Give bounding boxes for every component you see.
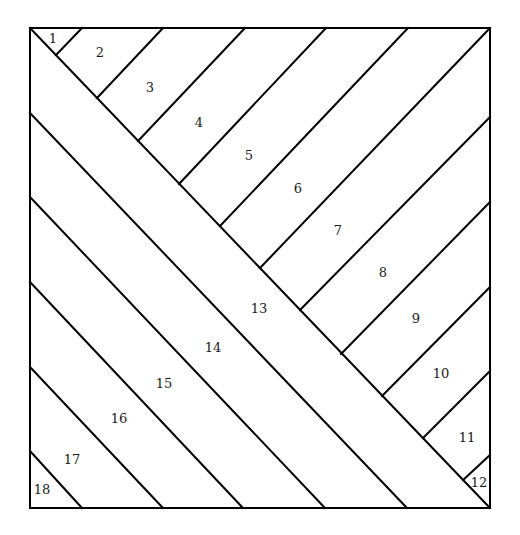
piece-label-6: 6 bbox=[294, 181, 302, 196]
piece-label-13: 13 bbox=[251, 301, 268, 316]
piece-label-16: 16 bbox=[111, 411, 128, 426]
pattern-diagram: 123456789101112131415161718 bbox=[0, 0, 520, 535]
piece-label-2: 2 bbox=[96, 45, 104, 60]
piece-label-5: 5 bbox=[245, 148, 253, 163]
piece-label-7: 7 bbox=[334, 223, 342, 238]
piece-label-17: 17 bbox=[64, 452, 81, 467]
piece-label-4: 4 bbox=[195, 115, 203, 130]
piece-label-18: 18 bbox=[34, 482, 51, 497]
piece-label-11: 11 bbox=[459, 430, 476, 445]
piece-label-14: 14 bbox=[205, 340, 222, 355]
piece-label-15: 15 bbox=[156, 376, 173, 391]
piece-label-12: 12 bbox=[471, 475, 488, 490]
piece-label-1: 1 bbox=[49, 31, 57, 46]
piece-label-9: 9 bbox=[412, 311, 420, 326]
piece-label-3: 3 bbox=[146, 80, 154, 95]
piece-label-8: 8 bbox=[379, 265, 387, 280]
piece-label-10: 10 bbox=[433, 366, 450, 381]
